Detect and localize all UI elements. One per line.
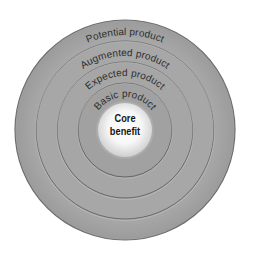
core-benefit-line-2: benefit [101,125,149,138]
core-benefit-line-1: Core [101,112,149,125]
core-benefit-label: Core benefit [101,112,149,138]
